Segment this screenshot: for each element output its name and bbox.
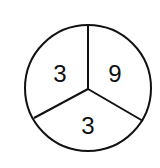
divided-circle-diagram: 3 9 3 (0, 0, 160, 168)
divider-lower-left (34, 89, 88, 118)
sector-upper-left-value: 3 (53, 60, 66, 87)
sector-bottom-value: 3 (81, 112, 94, 139)
sector-upper-right-value: 9 (108, 60, 121, 87)
divider-lower-right (88, 89, 143, 121)
